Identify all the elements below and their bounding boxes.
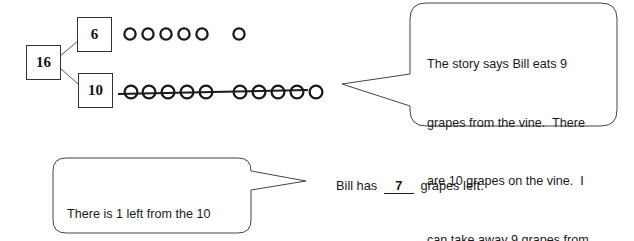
- counter-circle: [291, 86, 304, 99]
- counter-circle: [143, 86, 156, 99]
- counter-circle: [142, 28, 153, 39]
- answer-suffix: grapes left.: [420, 178, 483, 193]
- bond-part-bottom-box: 10: [78, 73, 113, 108]
- bond-part-top-box: 6: [77, 17, 112, 52]
- counter-circle: [125, 86, 138, 99]
- answer-prefix: Bill has: [336, 178, 377, 193]
- speech-bubble-bottom-text: There is 1 left from the 10 and 6 left f…: [67, 166, 217, 241]
- counter-circle: [272, 86, 285, 99]
- counter-circle: [310, 86, 323, 99]
- counter-circle: [178, 28, 189, 39]
- bond-part-bottom-value: 10: [88, 82, 103, 99]
- bond-whole-value: 16: [36, 54, 51, 71]
- bubble-line: There is 1 left from the 10: [67, 205, 217, 225]
- bond-whole-box: 16: [26, 45, 61, 80]
- bond-connector-bottom: [60, 68, 78, 84]
- counter-circle: [124, 28, 135, 39]
- counter-circle: [233, 28, 244, 39]
- speech-bubble-top-text: The story says Bill eats 9 grapes from t…: [427, 16, 589, 241]
- counter-circle: [196, 28, 207, 39]
- counters-top-row: [124, 28, 244, 39]
- counter-circle: [160, 28, 171, 39]
- answer-sentence: Bill has 7 grapes left.: [336, 178, 484, 194]
- bubble-line: grapes from the vine. There: [427, 114, 589, 134]
- bond-part-top-value: 6: [91, 26, 99, 43]
- bubble-line: can take away 9 grapes from: [427, 231, 589, 241]
- bond-connector-top: [60, 41, 78, 56]
- answer-blank: 7: [384, 179, 414, 194]
- bubble-line: The story says Bill eats 9: [427, 55, 589, 75]
